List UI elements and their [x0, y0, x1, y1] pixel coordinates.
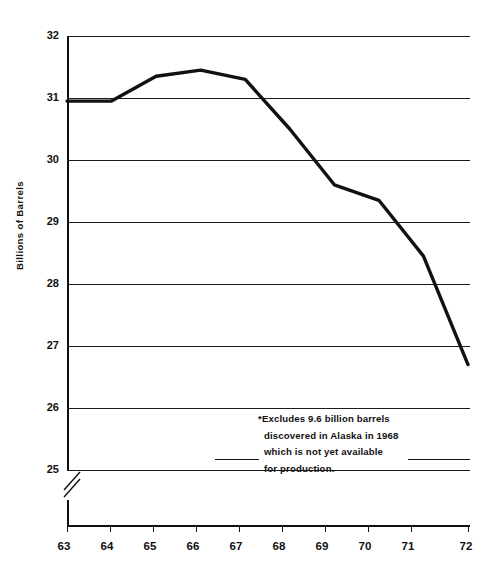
annotation-line-2: discovered in Alaska in 1968	[258, 428, 488, 445]
y-axis-title: Billions of Barrels	[14, 140, 25, 270]
x-tick-label-70: 70	[352, 540, 378, 552]
y-tick-label-30: 30	[33, 153, 59, 165]
y-tick-label-26: 26	[33, 401, 59, 413]
y-tick-label-27: 27	[33, 339, 59, 351]
x-tick-label-66: 66	[180, 540, 206, 552]
y-tick-label-25: 25	[33, 463, 59, 475]
y-tick-label-31: 31	[33, 91, 59, 103]
annotation-line-4: for production.	[258, 461, 488, 478]
x-tick-label-71: 71	[395, 540, 421, 552]
x-tick-label-63: 63	[51, 540, 77, 552]
y-tick-label-28: 28	[33, 277, 59, 289]
annotation-line-3: which is not yet available	[258, 444, 488, 461]
y-tick-label-32: 32	[33, 29, 59, 41]
chart-figure: Billions of Barrels 32 31 30 29 28 27 26…	[0, 0, 490, 574]
annotation-note: *Excludes 9.6 billion barrels discovered…	[258, 411, 488, 477]
x-tick-label-65: 65	[137, 540, 163, 552]
x-tick-label-72: 72	[453, 540, 479, 552]
annotation-rule-left	[215, 459, 259, 460]
x-tick-label-67: 67	[223, 540, 249, 552]
x-tick-label-64: 64	[94, 540, 120, 552]
x-tick-label-69: 69	[309, 540, 335, 552]
annotation-line-1: *Excludes 9.6 billion barrels	[258, 411, 488, 428]
x-tick-label-68: 68	[266, 540, 292, 552]
y-tick-label-29: 29	[33, 215, 59, 227]
